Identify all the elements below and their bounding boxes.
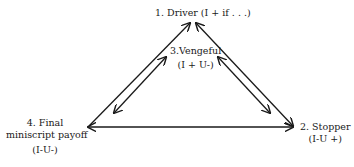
arrow-driver-to-stopper: [196, 23, 293, 126]
final-label-line1: 4. Final: [6, 117, 84, 129]
node-stopper: 2. Stopper (I-U +): [300, 121, 350, 145]
node-vengeful: 3.Vengeful (I + U-): [170, 45, 221, 71]
node-driver: 1. Driver (I + if . . .): [155, 7, 251, 19]
vengeful-formula: (I + U-): [170, 59, 221, 71]
arrow-vengeful-stopper: [218, 57, 270, 113]
arrow-vengeful-final: [114, 57, 166, 113]
stopper-label: 2. Stopper: [300, 121, 350, 133]
vengeful-label: 3.Vengeful: [170, 45, 221, 57]
miniscript-diagram: 1. Driver (I + if . . .) 3.Vengeful (I +…: [0, 0, 354, 167]
node-final: 4. Final miniscript payoff (I-U-): [6, 117, 84, 156]
final-label-line2: miniscript payoff: [6, 129, 84, 141]
arrow-final-to-driver: [89, 23, 190, 126]
driver-label: 1. Driver (I + if . . .): [155, 7, 251, 18]
final-formula: (I-U-): [6, 144, 84, 156]
stopper-formula: (I-U +): [300, 133, 350, 145]
